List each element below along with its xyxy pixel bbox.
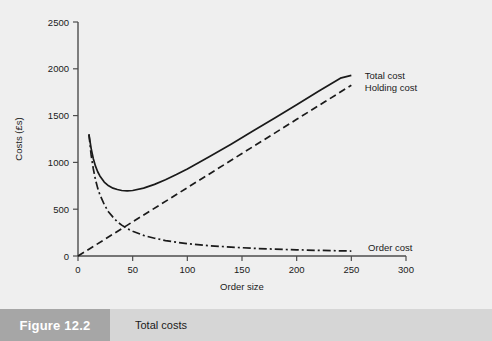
x-tick-label: 200 <box>289 264 305 275</box>
x-tick-label: 100 <box>179 264 195 275</box>
x-axis-ticks: 050100150200250300 <box>75 256 414 275</box>
figure-caption-bar: Figure 12.2 Total costs <box>0 309 492 341</box>
figure-caption-label: Total costs <box>135 319 187 331</box>
series-line-holding-cost <box>78 85 351 256</box>
y-tick-label: 0 <box>64 251 69 262</box>
y-tick-label: 2500 <box>48 17 69 28</box>
y-tick-label: 500 <box>53 204 69 215</box>
x-tick-label: 0 <box>75 264 80 275</box>
series-label-order-cost: Order cost <box>368 242 413 253</box>
y-tick-label: 1500 <box>48 110 69 121</box>
series-line-order-cost <box>89 134 351 251</box>
figure-number-label: Figure 12.2 <box>20 318 91 333</box>
figure-number-box: Figure 12.2 <box>0 309 110 341</box>
y-axis-title: Costs (£s) <box>13 117 24 160</box>
x-tick-label: 150 <box>234 264 250 275</box>
y-tick-label: 2000 <box>48 63 69 74</box>
series-line-total-cost <box>89 75 351 191</box>
y-axis-ticks: 05001000150020002500 <box>48 17 78 262</box>
figure-container: 05001000150020002500 050100150200250300 … <box>0 0 492 341</box>
y-tick-label: 1000 <box>48 157 69 168</box>
x-axis-title: Order size <box>220 281 264 292</box>
chart-series-group <box>78 75 351 256</box>
cost-curves-chart: 05001000150020002500 050100150200250300 … <box>0 0 492 305</box>
x-tick-label: 300 <box>398 264 414 275</box>
chart-series-labels: Total costHolding costOrder cost <box>365 70 418 253</box>
x-tick-label: 50 <box>127 264 138 275</box>
figure-caption-text-wrap: Total costs <box>110 309 492 341</box>
series-label-total-cost: Total cost <box>365 70 405 81</box>
chart-plot-area: 05001000150020002500 050100150200250300 … <box>0 0 492 305</box>
x-tick-label: 250 <box>343 264 359 275</box>
series-label-holding-cost: Holding cost <box>365 82 418 93</box>
